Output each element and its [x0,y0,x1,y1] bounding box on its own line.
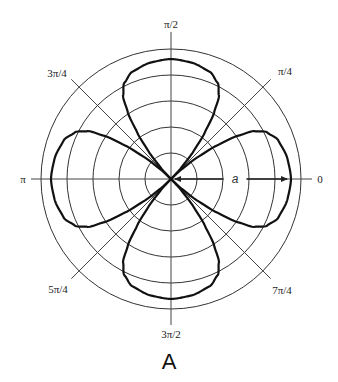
angle-label-45: π/4 [278,65,293,77]
figure-caption: A [0,349,338,375]
arrowhead-right-icon [281,176,288,182]
radius-marker: a [174,172,288,186]
angle-label-225: 5π/4 [48,283,68,295]
angle-label-315: 7π/4 [272,284,292,296]
radius-marker-label: a [232,172,239,186]
angle-label-270: 3π/2 [161,328,181,340]
angle-label-135: 3π/4 [47,67,67,79]
polar-plot: a 0π/4π/23π/4π5π/43π/27π/4 [0,0,338,382]
angle-label-90: π/2 [164,18,178,30]
arrowhead-left-icon [174,176,181,182]
angle-label-0: 0 [317,173,323,185]
angle-label-180: π [20,173,26,185]
